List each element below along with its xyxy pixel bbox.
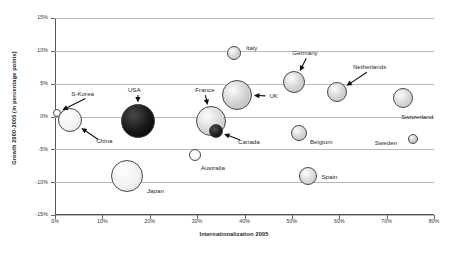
label-canada: Canada xyxy=(238,139,260,145)
y-tick-mark xyxy=(51,51,55,52)
label-france: France xyxy=(195,87,214,93)
y-tick-label: 5% xyxy=(0,81,48,86)
y-tick-label: 0% xyxy=(0,114,48,119)
label-uk: UK xyxy=(269,93,278,99)
bubble-canada[interactable] xyxy=(209,124,223,138)
y-axis-title: Growth 2000-2005 (in percentage points) xyxy=(11,20,17,196)
x-tick-label: 30% xyxy=(177,219,217,224)
x-tick-label: 20% xyxy=(130,219,170,224)
y-tick-label: 10% xyxy=(0,48,48,53)
y-tick-mark xyxy=(51,84,55,85)
label-australia: Australia xyxy=(201,165,225,171)
label-switzerland: Switzerland xyxy=(401,114,433,120)
x-tick-label: 50% xyxy=(272,219,312,224)
label-germany: Germany xyxy=(292,50,317,56)
gridline-y xyxy=(55,51,434,52)
x-tick-label: 70% xyxy=(367,219,407,224)
bubble-japan[interactable] xyxy=(111,160,143,192)
bubble-chart: 15%10%5%0%-5%-10%-15% 0%10%20%30%40%50%6… xyxy=(0,0,468,261)
label-netherlands: Netherlands xyxy=(353,64,386,70)
y-tick-mark xyxy=(51,182,55,183)
y-tick-label: -15% xyxy=(0,212,48,217)
label-sweden: Sweden xyxy=(375,140,397,146)
label-belgium: Belgium xyxy=(310,139,332,145)
label-s-korea: S-Korea xyxy=(71,91,94,97)
x-tick-label: 40% xyxy=(225,219,265,224)
label-italy: Italy xyxy=(246,45,257,51)
gridline-y xyxy=(55,117,434,118)
bubble-spain[interactable] xyxy=(299,167,317,185)
y-tick-mark xyxy=(51,149,55,150)
label-usa: USA xyxy=(128,87,141,93)
x-tick-label: 60% xyxy=(319,219,359,224)
y-tick-label: 15% xyxy=(0,15,48,20)
bubble-australia[interactable] xyxy=(189,149,201,161)
x-tick-label: 0% xyxy=(35,219,75,224)
bubble-belgium[interactable] xyxy=(291,125,307,141)
label-japan: Japan xyxy=(147,188,164,194)
bubble-usa[interactable] xyxy=(121,104,155,138)
gridline-y xyxy=(55,18,434,19)
y-tick-label: -5% xyxy=(0,147,48,152)
gridline-y xyxy=(55,149,434,150)
bubble-netherlands[interactable] xyxy=(327,82,347,102)
x-tick-label: 10% xyxy=(82,219,122,224)
label-spain: Spain xyxy=(321,174,337,180)
y-tick-mark xyxy=(51,18,55,19)
y-tick-mark xyxy=(51,117,55,118)
x-axis-title: Internationalization 2005 xyxy=(0,231,468,237)
bubble-italy[interactable] xyxy=(227,46,241,60)
y-tick-label: -10% xyxy=(0,180,48,185)
x-tick-label: 80% xyxy=(414,219,454,224)
label-china: China xyxy=(96,138,112,144)
